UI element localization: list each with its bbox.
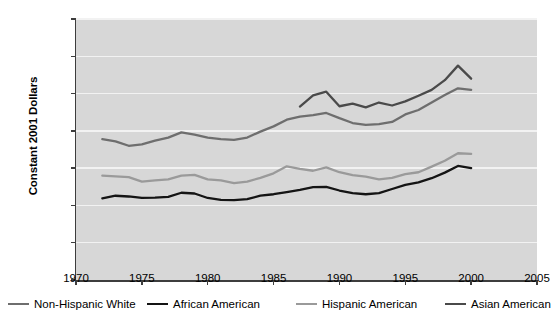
x-axis-label: 1980 <box>195 272 221 284</box>
legend-label: Asian American <box>471 298 551 310</box>
chart-legend: Non-Hispanic WhiteAfrican AmericanHispan… <box>8 295 556 313</box>
x-axis-label: 1970 <box>63 272 89 284</box>
series-line <box>102 153 471 183</box>
legend-label: African American <box>173 298 260 310</box>
plot-area <box>76 19 537 280</box>
legend-item[interactable]: Non-Hispanic White <box>8 298 136 310</box>
series-line <box>102 166 471 200</box>
x-axis-label: 2000 <box>458 272 484 284</box>
legend-item[interactable]: Asian American <box>445 298 551 310</box>
x-axis-label: 1995 <box>392 272 418 284</box>
legend-label: Non-Hispanic White <box>34 298 136 310</box>
legend-item[interactable]: African American <box>147 298 260 310</box>
y-axis-title: Constant 2001 Dollars <box>27 41 39 231</box>
x-axis-label: 1975 <box>129 272 155 284</box>
series-lines <box>76 19 537 280</box>
legend-color-swatch <box>8 303 29 305</box>
legend-color-swatch <box>147 303 168 305</box>
income-by-race-line-chart: Constant 2001 Dollars 010,00020,00030,00… <box>0 0 558 325</box>
legend-item[interactable]: Hispanic American <box>296 298 417 310</box>
legend-label: Hispanic American <box>322 298 417 310</box>
x-axis-label: 1990 <box>327 272 353 284</box>
series-line <box>300 66 471 108</box>
legend-color-swatch <box>445 303 466 305</box>
legend-color-swatch <box>296 303 317 305</box>
x-axis-label: 2005 <box>524 272 550 284</box>
x-axis-label: 1985 <box>261 272 287 284</box>
